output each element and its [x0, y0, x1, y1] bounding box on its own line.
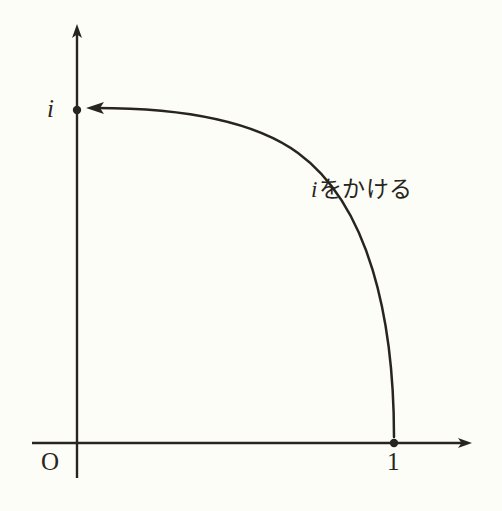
rotation-arc	[86, 102, 394, 437]
axis-label-real-unit: 1	[387, 449, 400, 474]
axis-label-imaginary-unit: i	[47, 96, 54, 121]
figure-canvas	[0, 0, 502, 511]
rotation-annotation: iをかける	[311, 178, 413, 201]
real-axis	[32, 438, 472, 448]
point-one	[390, 439, 398, 447]
axis-label-origin: O	[41, 449, 59, 474]
imaginary-axis	[72, 24, 82, 478]
rotation-arc-path	[96, 108, 394, 437]
point-i	[73, 106, 81, 114]
complex-plane-figure: i O 1 iをかける	[0, 0, 502, 511]
rotation-annotation-text: をかける	[319, 176, 413, 202]
rotation-annotation-variable: i	[311, 177, 319, 202]
